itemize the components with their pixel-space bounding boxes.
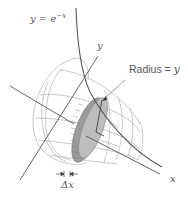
x-axis-line xyxy=(86,136,160,174)
x-axis-label: x xyxy=(170,174,176,184)
radius-label: Radius = y xyxy=(129,64,180,75)
curve-equation-label: y = e−x xyxy=(30,13,66,24)
curve-equation-base: y = e xyxy=(30,13,56,24)
curve-equation-exponent: −x xyxy=(56,12,66,20)
solid-of-revolution-figure: y = e−x y Radius = y Δx x xyxy=(0,0,188,204)
delta-x-label: Δx xyxy=(61,180,74,190)
diagram-canvas xyxy=(0,0,188,204)
radius-label-text: Radius = xyxy=(129,63,174,75)
radius-label-var: y xyxy=(174,63,180,75)
delta-x-arrows xyxy=(56,171,78,177)
y-axis-label: y xyxy=(97,41,103,51)
